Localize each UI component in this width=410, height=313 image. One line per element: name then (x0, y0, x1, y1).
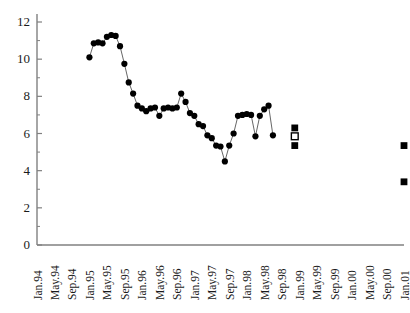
data-point-marker-square (291, 142, 298, 149)
data-point-marker (248, 112, 254, 118)
data-point-marker (265, 103, 271, 109)
y-axis-tick-label: 4 (8, 164, 30, 177)
x-axis-tick-label: Sep.97 (225, 268, 237, 300)
x-axis-tick-label: May.99 (312, 265, 324, 300)
data-point-marker (156, 113, 162, 119)
x-axis-tick-label: May.94 (50, 265, 62, 300)
data-point-marker (270, 132, 276, 138)
x-axis-tick-label: Jan.98 (242, 270, 254, 300)
data-point-marker-square (401, 178, 408, 185)
data-point-marker (126, 79, 132, 85)
data-point-marker (130, 90, 136, 96)
data-point-marker (117, 43, 123, 49)
x-axis-tick-label: Jan.94 (33, 270, 45, 300)
data-point-marker (257, 113, 263, 119)
x-axis-tick-label: May.95 (102, 265, 114, 300)
data-point-marker (174, 104, 180, 110)
x-axis-tick-label: Jan.96 (137, 270, 149, 300)
data-point-marker (178, 90, 184, 96)
x-axis-tick-label: Jan.00 (347, 270, 359, 300)
data-point-marker (99, 40, 105, 46)
data-point-marker (231, 130, 237, 136)
series-line-observed (89, 35, 273, 161)
x-axis-tick-label: Jan.95 (85, 270, 97, 300)
data-point-marker-square (401, 142, 408, 149)
data-point-marker (182, 99, 188, 105)
x-axis-tick-label: May.98 (260, 265, 272, 300)
y-axis-tick-label: 8 (8, 89, 30, 102)
x-axis-tick-label: Sep.99 (330, 268, 342, 300)
data-point-marker (217, 143, 223, 149)
data-point-marker (121, 61, 127, 67)
x-axis-tick-label: Sep.95 (120, 268, 132, 300)
data-point-marker-square (291, 125, 298, 132)
y-axis-tick-label: 2 (8, 201, 30, 214)
x-axis-tick-label: May.00 (365, 265, 377, 300)
data-point-marker (200, 123, 206, 129)
x-axis-tick-label: May.96 (155, 265, 167, 300)
data-point-marker-open-square (291, 133, 298, 140)
x-axis-tick-label: Sep.00 (382, 268, 394, 300)
y-axis-tick-label: 0 (8, 238, 30, 251)
y-axis-tick-label: 10 (8, 52, 30, 65)
x-axis-tick-label: Jan.99 (295, 270, 307, 300)
plot-area (0, 0, 410, 313)
x-axis-tick-label: May.97 (207, 265, 219, 300)
x-axis-tick-label: Sep.98 (277, 268, 289, 300)
x-axis-tick-label: Sep.94 (67, 268, 79, 300)
data-point-marker (113, 33, 119, 39)
data-point-marker (86, 54, 92, 60)
data-point-marker (252, 133, 258, 139)
y-axis-tick-label: 12 (8, 15, 30, 28)
y-axis-tick-label: 6 (8, 127, 30, 140)
data-point-marker (222, 158, 228, 164)
data-point-marker (191, 113, 197, 119)
x-axis-tick-label: Jan.97 (190, 270, 202, 300)
data-point-marker (226, 142, 232, 148)
data-point-marker (152, 104, 158, 110)
data-point-marker (209, 135, 215, 141)
x-axis-tick-label: Sep.96 (172, 268, 184, 300)
chart-container: 024681012 Jan.94May.94Sep.94Jan.95May.95… (0, 0, 410, 313)
x-axis-tick-label: Jan.01 (400, 270, 410, 300)
